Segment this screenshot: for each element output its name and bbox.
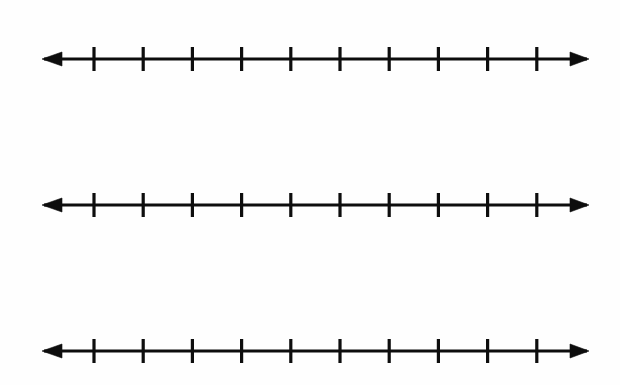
number-line-2	[42, 193, 589, 217]
number-line-1-left-arrow-icon	[42, 52, 62, 66]
number-lines-figure	[0, 0, 620, 385]
number-line-3-left-arrow-icon	[42, 344, 62, 358]
number-line-3-right-arrow-icon	[570, 344, 589, 358]
number-line-2-left-arrow-icon	[42, 198, 62, 212]
number-line-1	[42, 47, 589, 71]
number-line-3	[42, 339, 589, 363]
number-line-2-right-arrow-icon	[570, 198, 589, 212]
worksheet-canvas	[0, 0, 620, 385]
number-line-1-right-arrow-icon	[570, 52, 589, 66]
number-lines-group	[42, 47, 589, 363]
